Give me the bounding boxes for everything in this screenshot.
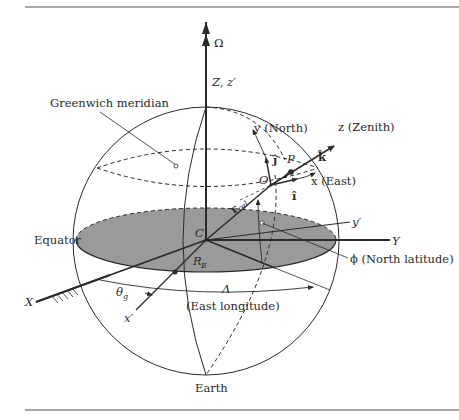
- svg-text:θ: θ: [116, 285, 123, 299]
- y-axis-label: Y: [392, 234, 401, 248]
- x-axis-outside: [36, 275, 110, 302]
- theta-g-arrow: [145, 293, 152, 295]
- meridian-pointer: [275, 268, 330, 290]
- coordinate-frames-diagram: Ω Z, z′ Greenwich meridian y (North) z (…: [0, 0, 459, 420]
- lambda-label: Λ: [221, 282, 230, 296]
- greenwich-equator-point: [173, 270, 178, 275]
- omega-arrow-icon: [202, 22, 210, 46]
- earth-label: Earth: [195, 381, 228, 395]
- o-label: O: [259, 173, 269, 187]
- y-north-label: y (North): [253, 121, 308, 135]
- i-hat-label: î: [292, 189, 297, 203]
- diagram-canvas: Ω Z, z′ Greenwich meridian y (North) z (…: [0, 0, 459, 420]
- meridian-arc-north: [206, 107, 306, 180]
- k-hat-label: k̂: [318, 150, 327, 164]
- longitude-arc: [100, 280, 313, 292]
- greenwich-marker: [174, 164, 178, 168]
- east-longitude-label: (East longitude): [186, 299, 280, 313]
- theta-g-label: θ g: [116, 285, 128, 301]
- c-label: C: [195, 226, 204, 240]
- svg-text:E: E: [200, 261, 207, 270]
- point-o: [269, 183, 272, 186]
- phi-label: ϕ (North latitude): [350, 252, 454, 266]
- j-hat-label: ĵ: [272, 153, 277, 167]
- x-prime-label: x′: [124, 311, 133, 325]
- point-p: [288, 169, 294, 175]
- x-axis-label: X: [24, 295, 34, 309]
- greenwich-pointer: [100, 112, 176, 165]
- center-c: [204, 238, 207, 241]
- equator-label: Equator: [34, 233, 82, 247]
- x-east-label: x (East): [311, 174, 356, 188]
- svg-text:g: g: [123, 292, 128, 301]
- z-zenith-label: z (Zenith): [338, 120, 395, 134]
- p-label: P: [286, 152, 295, 166]
- greenwich-label: Greenwich meridian: [50, 96, 170, 110]
- y-prime-label: y′: [351, 215, 361, 229]
- omega-label: Ω: [214, 36, 224, 50]
- z-axis-label: Z, z′: [211, 75, 236, 89]
